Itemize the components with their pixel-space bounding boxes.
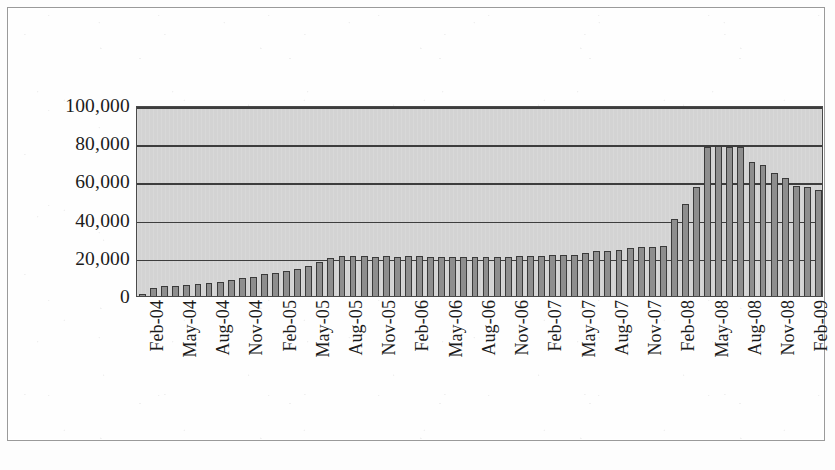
bar [239, 278, 246, 296]
bar [549, 255, 556, 296]
bar [616, 250, 623, 296]
bar [250, 277, 257, 296]
bar [527, 256, 534, 296]
bar [793, 186, 800, 296]
bar [150, 288, 157, 296]
bar [449, 257, 456, 296]
plot-area [136, 106, 823, 297]
bar [649, 247, 656, 296]
x-axis-tick-label: Feb-08 [679, 300, 697, 352]
bar [516, 256, 523, 296]
bar [582, 253, 589, 296]
bar [183, 285, 190, 296]
bar [505, 257, 512, 296]
bar [427, 257, 434, 296]
x-axis-tick-label: Aug-06 [480, 300, 498, 356]
x-axis-tick-label: May-06 [447, 300, 465, 358]
bar [272, 273, 279, 296]
bar [804, 187, 811, 296]
bar [305, 266, 312, 296]
bar [350, 256, 357, 296]
bar [737, 147, 744, 296]
bar [416, 256, 423, 296]
x-axis-tick-label: May-07 [580, 300, 598, 358]
bar [327, 258, 334, 296]
x-axis-tick-label: Aug-05 [347, 300, 365, 356]
bar [195, 284, 202, 296]
x-axis-tick-label: Feb-09 [812, 300, 830, 352]
bar [638, 247, 645, 296]
bar [472, 257, 479, 296]
y-axis-tick-label: 0 [26, 287, 130, 307]
bar [627, 248, 634, 297]
x-axis-tick-label: Aug-07 [613, 300, 631, 356]
x-axis-tick-label: May-04 [181, 300, 199, 358]
x-axis-tick-label: Aug-08 [746, 300, 764, 356]
x-axis-tick-label: Feb-04 [148, 300, 166, 352]
bar [815, 190, 822, 296]
x-axis-tick-label: May-08 [713, 300, 731, 358]
x-axis-tick-label: Nov-06 [513, 300, 531, 356]
y-axis-tick-label: 40,000 [26, 211, 130, 231]
chart-page: 100,00080,00060,00040,00020,0000 Feb-04M… [0, 0, 835, 470]
bar [483, 257, 490, 296]
bar [339, 256, 346, 296]
bar [593, 251, 600, 296]
bar [206, 283, 213, 296]
bar [726, 147, 733, 296]
bar [172, 286, 179, 296]
y-axis: 100,00080,00060,00040,00020,0000 [26, 96, 130, 308]
bar [372, 257, 379, 296]
x-axis-tick-label: Feb-06 [413, 300, 431, 352]
x-axis-tick-label: Aug-04 [214, 300, 232, 356]
y-axis-tick-label: 60,000 [26, 172, 130, 192]
bar [760, 165, 767, 296]
bar [161, 286, 168, 296]
bar [782, 178, 789, 296]
y-axis-tick-label: 80,000 [26, 134, 130, 154]
bar [693, 187, 700, 296]
bar [316, 262, 323, 296]
bar [283, 271, 290, 296]
bar [438, 257, 445, 296]
bar [217, 282, 224, 296]
x-axis-tick-label: Nov-08 [779, 300, 797, 356]
x-axis-tick-label: Nov-04 [247, 300, 265, 356]
bar [405, 256, 412, 296]
bar [494, 257, 501, 296]
bar [261, 274, 268, 296]
x-axis-tick-label: Nov-05 [380, 300, 398, 356]
bar [771, 173, 778, 296]
bar [460, 257, 467, 296]
x-axis-tick-label: May-05 [314, 300, 332, 358]
bar [671, 219, 678, 296]
figure-frame: 100,00080,00060,00040,00020,0000 Feb-04M… [7, 7, 825, 441]
x-axis-tick-label: Nov-07 [646, 300, 664, 356]
x-axis-tick-label: Feb-05 [281, 300, 299, 352]
bar [604, 251, 611, 296]
bar [715, 146, 722, 296]
bar [538, 256, 545, 296]
x-axis: Feb-04May-04Aug-04Nov-04Feb-05May-05Aug-… [136, 300, 823, 418]
y-axis-tick-label: 100,000 [26, 96, 130, 116]
bar [749, 162, 756, 296]
bar [571, 255, 578, 296]
x-axis-tick-label: Feb-07 [546, 300, 564, 352]
bar [394, 257, 401, 296]
bar [682, 204, 689, 296]
bar-series [137, 107, 822, 296]
bar [704, 147, 711, 296]
bar [660, 246, 667, 296]
bar [228, 280, 235, 296]
bar [294, 269, 301, 296]
bar [361, 256, 368, 296]
bar [383, 256, 390, 296]
bar [139, 294, 146, 296]
bar [560, 255, 567, 296]
y-axis-tick-label: 20,000 [26, 249, 130, 269]
